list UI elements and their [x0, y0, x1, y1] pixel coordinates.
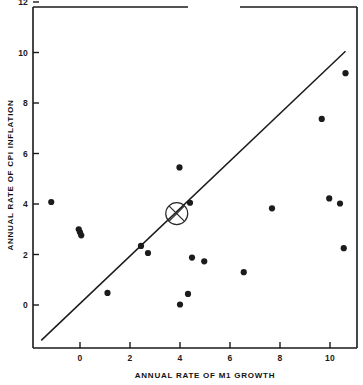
x-tick-label-8: 8: [278, 353, 283, 363]
x-tick-label-10: 10: [325, 353, 335, 363]
data-point: [48, 199, 54, 205]
x-axis-title: ANNUAL RATE OF M1 GROWTH: [135, 371, 275, 380]
data-point: [104, 290, 110, 296]
y-tick-label-0: 0: [23, 300, 28, 310]
data-point: [185, 291, 191, 297]
plot-canvas: 0246810024681012 ANNUAL RATE OF M1 GROWT…: [0, 0, 363, 385]
x-tick-label-4: 4: [178, 353, 183, 363]
data-point: [187, 200, 193, 206]
forty-five-degree-line: [41, 51, 345, 340]
x-tick-label-0: 0: [78, 353, 83, 363]
y-tick-label-6: 6: [23, 149, 28, 159]
data-points: [48, 70, 348, 307]
axis-tick-labels: 0246810024681012: [18, 0, 335, 363]
y-tick-label-2: 2: [23, 250, 28, 260]
data-point: [342, 70, 348, 76]
data-point: [201, 258, 207, 264]
y-axis-title: ANNUAL RATE OF CPI INFLATION: [6, 99, 15, 250]
y-tick-label-4: 4: [23, 199, 28, 209]
data-point: [337, 200, 343, 206]
data-point: [341, 245, 347, 251]
reference-line: [41, 51, 345, 340]
circled-x-mean-marker: [166, 203, 188, 225]
plot-frame: [33, 7, 357, 348]
data-point: [326, 195, 332, 201]
y-tick-label-10: 10: [18, 48, 28, 58]
data-point: [78, 232, 84, 238]
data-point: [145, 250, 151, 256]
axis-ticks: [33, 2, 330, 348]
scatter-plot-figure: 0246810024681012 ANNUAL RATE OF M1 GROWT…: [0, 0, 363, 385]
data-point: [189, 254, 195, 260]
x-tick-label-2: 2: [128, 353, 133, 363]
y-tick-label-8: 8: [23, 98, 28, 108]
data-point: [319, 116, 325, 122]
data-point: [177, 301, 183, 307]
x-tick-label-6: 6: [228, 353, 233, 363]
y-tick-label-12: 12: [18, 0, 28, 7]
data-point: [241, 269, 247, 275]
data-point: [269, 205, 275, 211]
data-point: [176, 164, 182, 170]
data-point: [138, 243, 144, 249]
